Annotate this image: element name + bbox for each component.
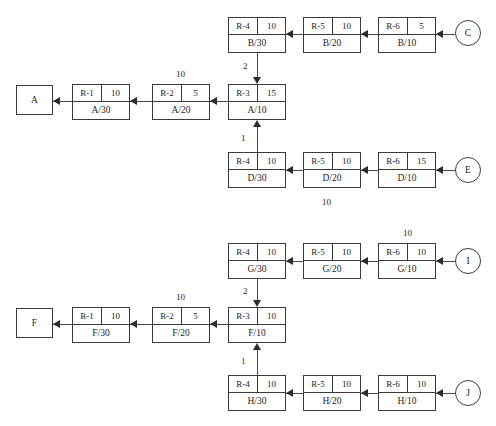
node-g30-resource: R-4 — [229, 244, 258, 260]
node-b20-header: R-5 10 — [304, 18, 360, 35]
node-b30[interactable]: R-4 10 B/30 — [228, 17, 286, 53]
node-f20-resource: R-2 — [153, 308, 182, 324]
edge-label-d-to-a: 1 — [241, 134, 246, 143]
node-g30-header: R-4 10 — [229, 244, 285, 261]
node-h30-resource: R-4 — [229, 376, 258, 392]
node-d30-label: D/30 — [229, 170, 285, 187]
edge-label-above-f20: 10 — [176, 293, 185, 302]
terminal-c[interactable]: C — [455, 20, 481, 46]
node-h20-header: R-5 10 — [304, 376, 360, 393]
node-g20-resource: R-5 — [304, 244, 333, 260]
edge-label-below-d20: 10 — [322, 198, 331, 207]
arrowhead-b30-to-a10 — [253, 77, 261, 84]
node-f10-label: F/10 — [229, 325, 285, 342]
arrowhead-b20-to-b30 — [286, 30, 293, 38]
terminal-f-label: F — [32, 318, 37, 328]
node-d10[interactable]: R-6 15 D/10 — [378, 152, 436, 188]
node-f30-label: F/30 — [73, 325, 129, 342]
node-a20[interactable]: R-2 5 A/20 — [152, 84, 210, 120]
terminal-j[interactable]: J — [455, 380, 481, 406]
node-a30-label: A/30 — [73, 102, 129, 119]
node-b30-label: B/30 — [229, 35, 285, 52]
edge-b30-to-a10 — [257, 53, 258, 78]
node-g10-label: G/10 — [379, 261, 435, 278]
node-b20[interactable]: R-5 10 B/20 — [303, 17, 361, 53]
node-f30-header: R-1 10 — [73, 308, 129, 325]
node-d20-resource: R-5 — [304, 153, 333, 169]
node-g20-value: 10 — [333, 244, 360, 260]
node-h10-header: R-6 10 — [379, 376, 435, 393]
node-d10-value: 15 — [408, 153, 435, 169]
node-b10[interactable]: R-6 5 B/10 — [378, 17, 436, 53]
arrowhead-a20-to-a30 — [130, 97, 137, 105]
arrowhead-d20-to-d30 — [286, 166, 293, 174]
node-h10[interactable]: R-6 10 H/10 — [378, 375, 436, 411]
arrowhead-h20-to-h30 — [286, 389, 293, 397]
node-f10-header: R-3 10 — [229, 308, 285, 325]
node-a10[interactable]: R-3 15 A/10 — [228, 84, 286, 120]
node-a10-label: A/10 — [229, 102, 285, 119]
node-h30-header: R-4 10 — [229, 376, 285, 393]
terminal-a-label: A — [31, 95, 38, 105]
node-f20-header: R-2 5 — [153, 308, 209, 325]
node-f20[interactable]: R-2 5 F/20 — [152, 307, 210, 343]
node-g10-value: 10 — [408, 244, 435, 260]
node-g30-label: G/30 — [229, 261, 285, 278]
node-f10[interactable]: R-3 10 F/10 — [228, 307, 286, 343]
arrowhead-g20-to-g30 — [286, 257, 293, 265]
node-a10-header: R-3 15 — [229, 85, 285, 102]
node-g20-label: G/20 — [304, 261, 360, 278]
node-d10-header: R-6 15 — [379, 153, 435, 170]
node-a30-value: 10 — [102, 85, 129, 101]
arrowhead-a30-to-a — [53, 97, 60, 105]
node-d30[interactable]: R-4 10 D/30 — [228, 152, 286, 188]
node-h10-value: 10 — [408, 376, 435, 392]
edge-label-above-a20: 10 — [176, 70, 185, 79]
node-h20[interactable]: R-5 10 H/20 — [303, 375, 361, 411]
terminal-j-label: J — [466, 388, 470, 398]
node-f30-resource: R-1 — [73, 308, 102, 324]
node-d20[interactable]: R-5 10 D/20 — [303, 152, 361, 188]
arrowhead-d30-to-a10 — [253, 120, 261, 127]
terminal-e-label: E — [465, 165, 471, 175]
node-g30[interactable]: R-4 10 G/30 — [228, 243, 286, 279]
node-d20-header: R-5 10 — [304, 153, 360, 170]
node-g10[interactable]: R-6 10 G/10 — [378, 243, 436, 279]
edge-label-h-to-f: 1 — [241, 357, 246, 366]
node-g30-value: 10 — [258, 244, 285, 260]
node-b20-label: B/20 — [304, 35, 360, 52]
arrowhead-h30-to-f10 — [253, 343, 261, 350]
node-h10-resource: R-6 — [379, 376, 408, 392]
node-h30-value: 10 — [258, 376, 285, 392]
arrowhead-i-to-g10 — [436, 257, 443, 265]
node-b30-header: R-4 10 — [229, 18, 285, 35]
terminal-e[interactable]: E — [455, 157, 481, 183]
arrowhead-e-to-d10 — [436, 166, 443, 174]
node-g20[interactable]: R-5 10 G/20 — [303, 243, 361, 279]
node-a30-header: R-1 10 — [73, 85, 129, 102]
node-a10-resource: R-3 — [229, 85, 258, 101]
node-f30[interactable]: R-1 10 F/30 — [72, 307, 130, 343]
node-h30[interactable]: R-4 10 H/30 — [228, 375, 286, 411]
node-a30[interactable]: R-1 10 A/30 — [72, 84, 130, 120]
node-d30-value: 10 — [258, 153, 285, 169]
edge-label-above-g10: 10 — [403, 229, 412, 238]
node-d10-resource: R-6 — [379, 153, 408, 169]
arrowhead-f10-to-f20 — [210, 320, 217, 328]
node-h20-label: H/20 — [304, 393, 360, 410]
terminal-i[interactable]: I — [455, 248, 481, 274]
node-f20-value: 5 — [182, 308, 209, 324]
edge-d30-to-a10 — [257, 127, 258, 152]
node-f10-resource: R-3 — [229, 308, 258, 324]
arrowhead-h10-to-h20 — [361, 389, 368, 397]
terminal-f[interactable]: F — [16, 308, 53, 338]
node-b10-label: B/10 — [379, 35, 435, 52]
node-d10-label: D/10 — [379, 170, 435, 187]
node-b20-resource: R-5 — [304, 18, 333, 34]
arrowhead-f30-to-f — [53, 320, 60, 328]
node-b10-value: 5 — [408, 18, 435, 34]
terminal-a[interactable]: A — [16, 85, 53, 115]
node-d20-label: D/20 — [304, 170, 360, 187]
node-d20-value: 10 — [333, 153, 360, 169]
arrowhead-g30-to-f10 — [253, 300, 261, 307]
